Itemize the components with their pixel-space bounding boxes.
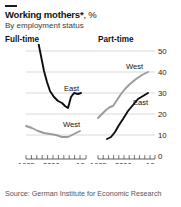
source-note: Source: German Institute for Economic Re… xyxy=(5,189,162,198)
x-axis-left xyxy=(26,155,86,159)
series-label-west-full-time: West xyxy=(63,120,81,129)
y-tick-30: 30 xyxy=(158,89,167,98)
title-text: Working mothers* xyxy=(5,9,83,20)
y-tick-10: 10 xyxy=(158,131,167,140)
title-unit: , % xyxy=(83,9,96,20)
series-label-east-part-time: East xyxy=(133,98,149,107)
y-tick-20: 20 xyxy=(158,110,167,119)
x-tick-18-left: 18 xyxy=(76,161,84,164)
line-east-full-time xyxy=(38,44,81,108)
header-rule xyxy=(5,5,17,7)
x-axis-right xyxy=(98,155,155,159)
x-axis-tick-labels-right: 1985 2000 18 xyxy=(90,161,154,164)
y-tick-50: 50 xyxy=(158,47,167,56)
y-tick-40: 40 xyxy=(158,68,167,77)
series-label-east-full-time: East xyxy=(64,84,80,93)
x-tick-2000-right: 2000 xyxy=(115,161,132,164)
x-tick-18-right: 18 xyxy=(146,161,154,164)
panel-label-full-time: Full-time xyxy=(5,35,39,44)
chart-plot-area: 50 40 30 20 10 0 East West West East xyxy=(0,44,181,164)
panel-label-part-time: Part-time xyxy=(98,35,134,44)
chart-svg: 50 40 30 20 10 0 East West West East xyxy=(0,44,181,164)
x-tick-2000-left: 2000 xyxy=(43,161,60,164)
page-subtitle: By employment status xyxy=(5,21,84,30)
line-west-part-time xyxy=(98,72,148,118)
series-label-west-part-time: West xyxy=(126,62,144,71)
x-tick-1985-left: 1985 xyxy=(18,161,35,164)
y-tick-0: 0 xyxy=(158,152,163,161)
y-axis-labels: 50 40 30 20 10 0 xyxy=(158,47,167,161)
page-title: Working mothers*, % xyxy=(5,9,97,20)
x-axis-tick-labels-left: 1985 2000 18 xyxy=(18,161,84,164)
x-tick-1985-right: 1985 xyxy=(90,161,107,164)
